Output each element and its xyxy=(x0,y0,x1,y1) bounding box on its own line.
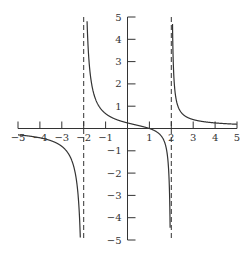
y-tick-label: 3 xyxy=(115,56,121,67)
y-tick-label: −2 xyxy=(107,168,122,179)
y-tick-label: −4 xyxy=(107,212,122,223)
y-tick-label: 1 xyxy=(115,101,121,112)
x-tick-label: 2 xyxy=(168,132,174,143)
x-tick-label: 4 xyxy=(212,132,218,143)
x-tick-label: −1 xyxy=(98,132,113,143)
x-tick-label: 1 xyxy=(146,132,152,143)
axes xyxy=(18,17,237,240)
y-tick-label: −3 xyxy=(107,190,122,201)
x-tick-label: −5 xyxy=(11,132,26,143)
y-tick-label: −1 xyxy=(107,145,122,156)
y-tick-label: −5 xyxy=(107,235,122,246)
curve-branch-2 xyxy=(87,21,170,228)
x-tick-label: 5 xyxy=(234,132,240,143)
x-tick-label: −3 xyxy=(54,132,69,143)
curve-branch-1 xyxy=(18,135,80,238)
x-tick-label: 3 xyxy=(190,132,196,143)
y-tick-label: 4 xyxy=(115,34,121,45)
function-plot: −5−4−3−2−112345−5−4−3−2−112345 xyxy=(0,0,250,257)
y-tick-label: 2 xyxy=(115,78,121,89)
y-tick-label: 5 xyxy=(115,12,121,23)
x-tick-label: −2 xyxy=(76,132,91,143)
curve-branch-3 xyxy=(173,24,237,124)
